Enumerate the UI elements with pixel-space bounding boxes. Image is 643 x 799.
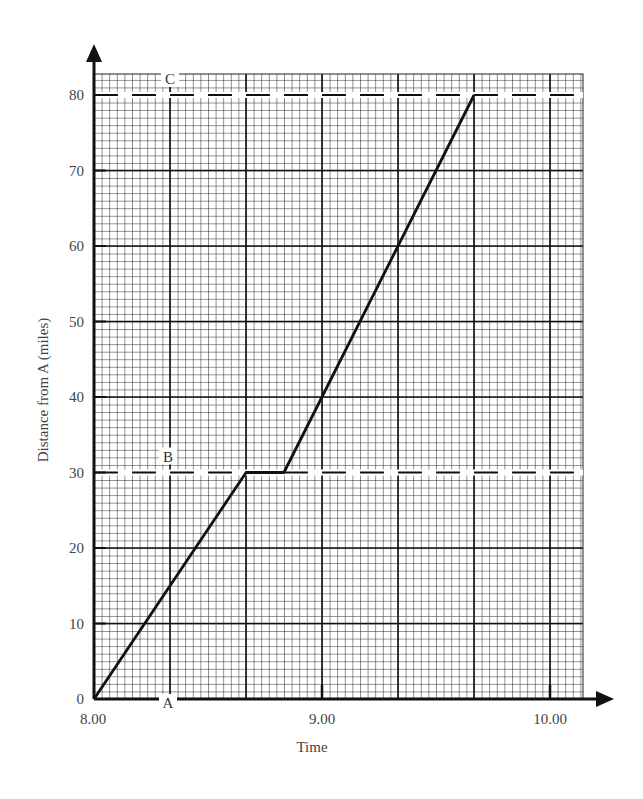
x-axis-arrow-icon: [596, 691, 614, 707]
y-tick-label: 20: [69, 540, 84, 556]
y-tick-label: 50: [69, 314, 84, 330]
x-tick-label: 9.00: [309, 711, 335, 727]
y-tick-label: 60: [69, 238, 84, 254]
y-axis-arrow-icon: [86, 44, 102, 62]
distance-time-chart: 010203040506070808.009.0010.00 ABC Time …: [0, 0, 643, 799]
x-tick-label: 10.00: [533, 711, 567, 727]
x-axis-title: Time: [296, 739, 327, 755]
point-label-c: C: [165, 71, 175, 87]
point-label-b: B: [163, 449, 173, 465]
y-tick-label: 30: [69, 465, 84, 481]
y-axis-title: Distance from A (miles): [35, 318, 52, 463]
y-tick-label: 40: [69, 389, 84, 405]
point-label-a: A: [163, 695, 174, 711]
y-tick-label: 70: [69, 163, 84, 179]
y-tick-label: 80: [69, 87, 84, 103]
x-tick-label: 8.00: [80, 711, 106, 727]
y-tick-label: 0: [77, 691, 85, 707]
grid: [94, 74, 583, 699]
y-tick-label: 10: [69, 616, 84, 632]
